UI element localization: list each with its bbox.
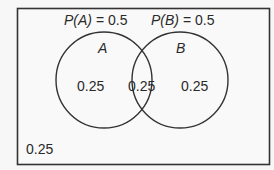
set-a-name: A <box>98 40 107 56</box>
prob-b-value: = 0.5 <box>183 12 215 28</box>
set-b-name: B <box>176 40 185 56</box>
prob-b-label: P(B) = 0.5 <box>151 12 214 28</box>
prob-a-prefix: P(A) <box>64 12 92 28</box>
prob-b-prefix: P(B) <box>151 12 179 28</box>
prob-a-label: P(A) = 0.5 <box>64 12 127 28</box>
region-intersection: 0.25 <box>128 78 155 94</box>
prob-a-value: = 0.5 <box>96 12 128 28</box>
region-b-only: 0.25 <box>181 78 208 94</box>
region-a-only: 0.25 <box>77 78 104 94</box>
region-outside: 0.25 <box>26 141 53 157</box>
